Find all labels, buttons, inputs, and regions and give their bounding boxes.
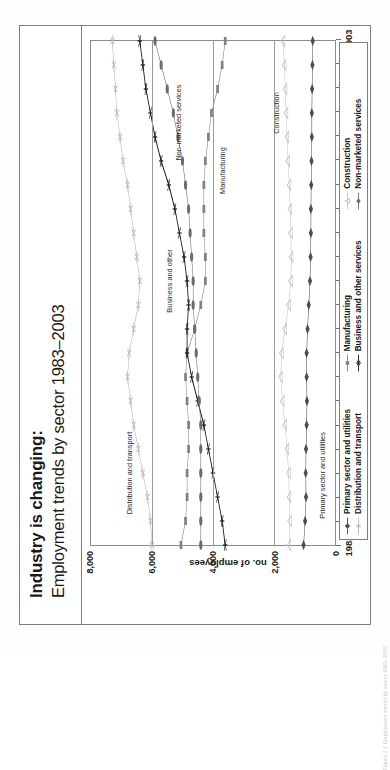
- legend-label: Business and other services: [354, 240, 364, 351]
- legend-item[interactable]: Non-marketed services: [354, 47, 364, 210]
- presentation-slide: Industry is changing: Employment trends …: [19, 25, 371, 625]
- series-primary-sector-and-utilities: [301, 36, 314, 550]
- legend-label: Non-marketed services: [354, 99, 364, 189]
- plot-annotation: Business and other: [164, 249, 173, 312]
- slide-title: Industry is changing:: [27, 26, 47, 598]
- legend-marker-asterisk-icon: [354, 354, 363, 372]
- plot-annotation: Primary sector and utilities: [317, 432, 326, 519]
- plot-annotation: Manufacturing: [218, 147, 227, 194]
- legend-item[interactable]: Business and other services: [354, 210, 364, 373]
- y-tick-label: 4,000: [208, 551, 218, 574]
- series-construction: [279, 35, 294, 550]
- y-tick-label: 0: [331, 551, 341, 556]
- slide-body: no. of employees 02,0004,0006,0008,000 D…: [82, 26, 370, 624]
- slide-heading: Industry is changing: Employment trends …: [20, 26, 82, 624]
- gridline: [152, 41, 153, 545]
- x-tick-mark: [336, 545, 341, 546]
- plot-annotation: Distribution and transport: [125, 432, 134, 515]
- plot-annotation: Construction: [271, 92, 280, 134]
- legend-marker-star-icon: [354, 517, 363, 535]
- plot-annotation: Non-marketed services: [173, 85, 182, 161]
- legend-column: ManufacturingBusiness and other services: [343, 210, 365, 373]
- legend-item[interactable]: Manufacturing: [343, 210, 353, 373]
- legend-label: Construction: [343, 138, 353, 189]
- legend-item[interactable]: Primary sector and utilities: [343, 372, 353, 535]
- chart-legend: Primary sector and utilitiesDistribution…: [339, 42, 369, 540]
- legend-item[interactable]: Construction: [343, 47, 353, 210]
- figure-caption: Figure 2.1 Employment trends by sector 1…: [382, 646, 388, 770]
- series-manufacturing: [180, 37, 227, 549]
- legend-label: Distribution and transport: [354, 413, 364, 514]
- legend-marker-diamond-icon: [343, 517, 352, 535]
- line-chart: no. of employees 02,0004,0006,0008,000 D…: [90, 40, 366, 598]
- slide-subtitle: Employment trends by sector 1983–2003: [49, 26, 69, 598]
- y-tick-label: 2,000: [270, 551, 280, 574]
- legend-label: Primary sector and utilities: [343, 409, 353, 514]
- gridline: [213, 41, 214, 545]
- legend-label: Manufacturing: [343, 295, 353, 351]
- plot-area: Distribution and transportBusiness and o…: [90, 40, 336, 546]
- slide-rotation-wrapper: Industry is changing: Employment trends …: [19, 25, 371, 625]
- y-axis-ticks: 02,0004,0006,0008,000: [90, 548, 336, 582]
- legend-column: ConstructionNon-marketed services: [343, 47, 365, 210]
- legend-marker-circle-icon: [354, 192, 363, 210]
- figure-caption-text: Figure 2.1 Employment trends by sector 1…: [382, 646, 388, 770]
- legend-marker-triangle-icon: [343, 192, 352, 210]
- legend-column: Primary sector and utilitiesDistribution…: [343, 372, 365, 535]
- legend-marker-square-icon: [343, 354, 352, 372]
- x-tick-mark: [336, 39, 341, 40]
- y-tick-label: 8,000: [85, 551, 95, 574]
- legend-item[interactable]: Distribution and transport: [354, 372, 364, 535]
- y-tick-label: 6,000: [147, 551, 157, 574]
